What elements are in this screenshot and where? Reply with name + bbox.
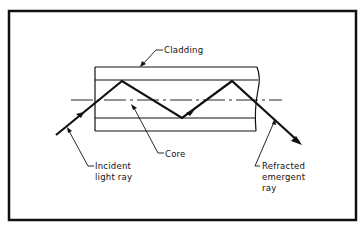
label-incident-line2: light ray xyxy=(95,171,132,182)
label-incident-line1: Incident xyxy=(95,160,132,171)
label-refracted-line3: ray xyxy=(262,182,305,193)
label-incident: Incident light ray xyxy=(95,160,132,182)
fiber xyxy=(95,67,259,131)
label-core: Core xyxy=(165,148,186,159)
leader-cladding xyxy=(142,50,163,65)
label-refracted: Refracted emergent ray xyxy=(262,160,305,193)
light-ray xyxy=(56,81,299,142)
fiber-diagram xyxy=(0,0,364,228)
leader-incident xyxy=(69,131,94,166)
label-refracted-line1: Refracted xyxy=(262,160,305,171)
label-refracted-line2: emergent xyxy=(262,171,305,182)
label-cladding: Cladding xyxy=(164,44,203,55)
